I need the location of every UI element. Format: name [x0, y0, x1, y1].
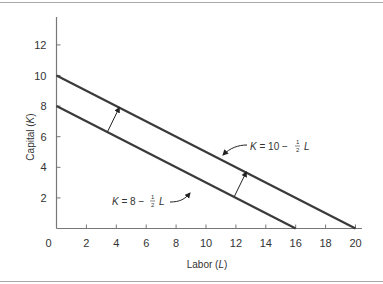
isocost-line-upper — [57, 76, 356, 229]
x-tick-label: 8 — [173, 237, 179, 249]
y-axis-title: Capital (K) — [25, 113, 36, 160]
y-tick-label: 4 — [40, 161, 46, 173]
eq-lower-frac-num: 1 — [151, 194, 155, 200]
x-axis-title: Labor (L) — [187, 259, 228, 270]
eq-lower-leader — [170, 193, 190, 202]
x-tick-label: 18 — [319, 237, 331, 249]
eq-upper-frac-num: 1 — [296, 139, 300, 145]
y-tick-label: 8 — [40, 100, 46, 112]
x-tick-label: 0 — [45, 237, 51, 249]
y-tick-label: 2 — [40, 192, 46, 204]
x-tick-label: 12 — [230, 237, 242, 249]
eq-upper-leader — [223, 145, 247, 155]
axes: 2468101202468101214161820 — [34, 17, 362, 249]
x-tick-label: 2 — [83, 237, 89, 249]
isocost-line-lower — [57, 106, 296, 228]
y-tick-label: 6 — [40, 131, 46, 143]
eq-lower-frac-den: 2 — [151, 202, 155, 208]
eq-upper-frac-den: 2 — [296, 147, 300, 153]
eq-upper-var: L — [304, 141, 310, 152]
y-tick-label: 12 — [34, 39, 46, 51]
x-tick-label: 10 — [200, 237, 212, 249]
series — [57, 76, 356, 229]
x-tick-label: 16 — [290, 237, 302, 249]
eq-upper-label: K = 10 − — [250, 141, 288, 152]
shift-arrow — [107, 108, 119, 132]
x-tick-label: 14 — [260, 237, 272, 249]
eq-lower-label: K = 8 − — [112, 196, 144, 207]
x-tick-label: 20 — [349, 237, 361, 249]
shift-arrow — [234, 172, 246, 196]
shift-arrows — [107, 108, 246, 197]
x-tick-label: 6 — [143, 237, 149, 249]
isocost-chart: 2468101202468101214161820 K = 10 − 1 2 L… — [0, 0, 383, 284]
y-tick-label: 10 — [34, 70, 46, 82]
eq-lower-var: L — [159, 196, 165, 207]
x-tick-label: 4 — [113, 237, 119, 249]
